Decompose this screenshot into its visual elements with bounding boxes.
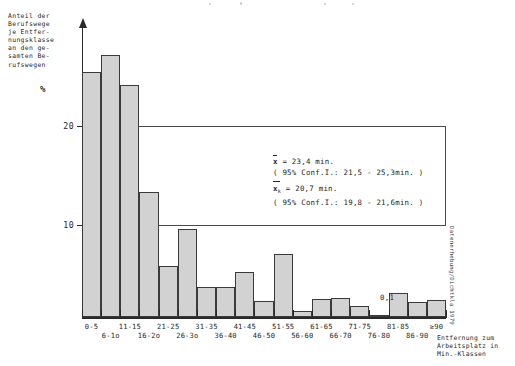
mean-line: x = 23,4 min. xyxy=(273,156,423,167)
x-label-56-60: 56-60 xyxy=(282,331,323,340)
x-tick-8 xyxy=(235,310,236,318)
x-label-71-75: 71-75 xyxy=(339,322,380,331)
y-axis-unit: % xyxy=(40,84,46,94)
y-axis-caption: Anteil der Berufswege je Entfer- nungskl… xyxy=(8,12,76,69)
bar-value-label-0-1: 0,1 xyxy=(380,293,394,302)
bar-36-40 xyxy=(216,287,235,317)
x-tick-0 xyxy=(82,310,83,318)
x-tick-15 xyxy=(369,310,370,318)
x-label-41-45: 41-45 xyxy=(224,322,265,331)
mean-ci: ( 95% Conf.I.: 21,5 - 25,3min. ) xyxy=(273,167,423,178)
x-tick-7 xyxy=(216,310,217,318)
x-tick-6 xyxy=(197,310,198,318)
x-axis-line xyxy=(82,317,446,319)
bar-51-55 xyxy=(274,254,293,317)
scan-artifact xyxy=(209,3,211,5)
bar-31-35 xyxy=(197,287,216,317)
x-tick-14 xyxy=(350,310,351,318)
x-label-66-70: 66-70 xyxy=(320,331,361,340)
source-note: Datenerhebung/Dichtkla 1979 xyxy=(449,226,455,325)
chart-canvas: Anteil der Berufswege je Entfer- nungskl… xyxy=(0,0,515,366)
x-tick-10 xyxy=(274,310,275,318)
bar-46-50 xyxy=(254,301,273,317)
x-tick-17 xyxy=(408,310,409,318)
mean-value: = 23,4 min. xyxy=(282,157,334,166)
bar-≥90 xyxy=(427,300,446,317)
x-label-46-50: 46-50 xyxy=(243,331,284,340)
x-tick-2 xyxy=(120,310,121,318)
x-tick-18 xyxy=(427,310,428,318)
x-tick-3 xyxy=(139,310,140,318)
bar-86-90 xyxy=(408,302,427,317)
mean-k-symbol: xk xyxy=(273,183,281,197)
bar-41-45 xyxy=(235,272,254,317)
y-tick-label-10: 10 xyxy=(50,220,74,230)
bar-16-2o xyxy=(139,192,158,317)
mean-k-line: xk = 20,7 min. xyxy=(273,183,423,197)
bar-71-75 xyxy=(350,306,369,317)
mean-k-ci: ( 95% Conf.I.: 19,8 - 21,6min. ) xyxy=(273,197,423,208)
scan-artifact xyxy=(352,3,354,5)
x-label-0-5: 0-5 xyxy=(71,322,112,331)
x-label-81-85: 81-85 xyxy=(378,322,419,331)
mean-symbol-letter: x xyxy=(273,157,278,166)
mean-symbol: x xyxy=(273,156,278,167)
bar-76-80 xyxy=(369,315,388,317)
bar-61-65 xyxy=(312,299,331,317)
x-label-76-80: 76-80 xyxy=(358,331,399,340)
bar-6-1o xyxy=(101,55,120,317)
bar-21-25 xyxy=(159,266,178,317)
statistics-annotation: x = 23,4 min. ( 95% Conf.I.: 21,5 - 25,3… xyxy=(273,156,423,209)
x-label-36-40: 36-40 xyxy=(205,331,246,340)
x-label-16-2o: 16-2o xyxy=(128,331,169,340)
x-label-86-90: 86-90 xyxy=(397,331,438,340)
x-label-6-1o: 6-1o xyxy=(90,331,131,340)
x-tick-5 xyxy=(178,310,179,318)
mean-k-value: = 20,7 min. xyxy=(286,184,338,193)
x-tick-13 xyxy=(331,310,332,318)
x-label-51-55: 51-55 xyxy=(263,322,304,331)
bar-56-60 xyxy=(293,311,312,317)
x-tick-4 xyxy=(159,310,160,318)
x-label-61-65: 61-65 xyxy=(301,322,342,331)
bar-26-3o xyxy=(178,229,197,318)
x-tick-19 xyxy=(446,310,447,318)
x-tick-12 xyxy=(312,310,313,318)
x-label-11-15: 11-15 xyxy=(109,322,150,331)
x-tick-1 xyxy=(101,310,102,318)
bar-0-5 xyxy=(82,72,101,317)
scan-artifact xyxy=(324,3,326,5)
bar-66-70 xyxy=(331,298,350,317)
y-tick-label-20: 20 xyxy=(50,121,74,131)
x-tick-11 xyxy=(293,310,294,318)
x-tick-9 xyxy=(254,310,255,318)
x-label-21-25: 21-25 xyxy=(148,322,189,331)
x-label-31-35: 31-35 xyxy=(186,322,227,331)
mean-k-subscript: k xyxy=(278,188,281,194)
x-tick-16 xyxy=(389,310,390,318)
bar-11-15 xyxy=(120,85,139,317)
scan-artifact xyxy=(240,2,242,5)
x-axis-title: Entfernung zum Arbeitsplatz in Min.-Klas… xyxy=(437,334,498,359)
x-label-26-3o: 26-3o xyxy=(167,331,208,340)
